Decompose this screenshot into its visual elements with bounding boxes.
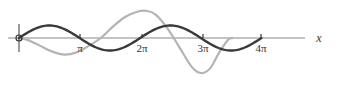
tick-label-2pi: 2π: [136, 42, 148, 54]
function-plot: π 2π 3π 4π x: [0, 0, 339, 107]
tick-label-3pi: 3π: [197, 42, 209, 54]
x-axis-label: x: [315, 31, 322, 45]
tick-label-pi: π: [77, 42, 83, 54]
tick-label-4pi: 4π: [255, 42, 267, 54]
